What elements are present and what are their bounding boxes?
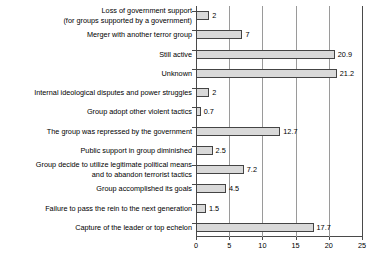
x-tick-label-15: 15 [292,241,300,250]
bar [196,184,226,193]
bar [196,223,314,232]
bar [196,146,213,155]
bar [196,204,206,213]
category-label: Group decide to utilize legitimate polit… [0,160,192,178]
bar [196,127,280,136]
category-label: Group accomplished its goals [0,184,192,193]
gridline-25 [362,6,363,237]
category-label: Failure to pass the rein to the next gen… [0,204,192,213]
bar [196,30,242,39]
bar [196,50,335,59]
bar-value-label: 20.9 [338,50,352,59]
x-tick-label-5: 5 [227,241,231,250]
bar-value-label: 4.5 [229,184,239,193]
x-tick-label-25: 25 [358,241,366,250]
bar [196,165,244,174]
category-label: Group adopt other violent tactics [0,107,192,116]
bar-chart: Loss of government support (for groups s… [0,0,377,259]
x-tick-mark-25 [362,237,363,240]
bar-series: 2720.921.220.712.72.57.24.51.517.7 [196,6,362,237]
category-label: Still active [0,50,192,59]
bar-value-label: 2 [212,11,216,20]
category-label: Capture of the leader or top echelon [0,223,192,232]
bar-value-label: 12.7 [283,127,297,136]
bar [196,11,209,20]
category-label: Internal ideological disputes and power … [0,88,192,97]
category-label: Merger with another terror group [0,30,192,39]
bar-value-label: 7 [245,30,249,39]
x-tick-mark-0 [196,237,197,240]
x-tick-mark-10 [262,237,263,240]
x-tick-mark-15 [296,237,297,240]
bar [196,88,209,97]
clipped-title-text [150,0,230,1]
bar-value-label: 1.5 [209,204,219,213]
category-label: Unknown [0,69,192,78]
bar-value-label: 2 [212,88,216,97]
bar-value-label: 2.5 [216,146,226,155]
bar-value-label: 21.2 [340,69,354,78]
x-tick-label-0: 0 [194,241,198,250]
category-label: The group was repressed by the governmen… [0,127,192,136]
x-tick-label-10: 10 [258,241,266,250]
bar-value-label: 0.7 [204,107,214,116]
bar-value-label: 7.2 [247,165,257,174]
bar [196,107,201,116]
category-axis: Loss of government support (for groups s… [0,6,192,237]
x-axis: 0510152025 [196,237,362,257]
category-label: Public support in group diminished [0,146,192,155]
x-tick-mark-20 [329,237,330,240]
x-tick-mark-5 [229,237,230,240]
x-tick-label-20: 20 [325,241,333,250]
bar [196,69,337,78]
category-label: Loss of government support (for groups s… [0,6,192,24]
bar-value-label: 17.7 [317,223,331,232]
plot-area: 2720.921.220.712.72.57.24.51.517.7 [196,6,362,237]
